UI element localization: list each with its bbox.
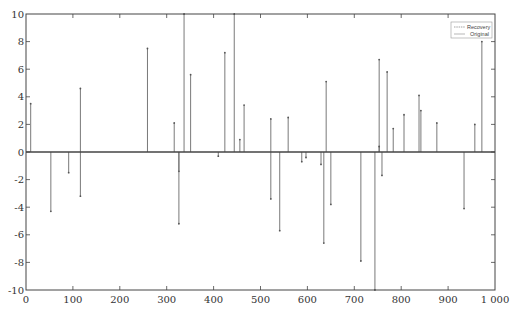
stem-marker bbox=[50, 210, 52, 212]
x-tick-label: 900 bbox=[439, 294, 458, 305]
stem-marker bbox=[147, 48, 149, 50]
y-tick-label: 6 bbox=[18, 64, 24, 75]
stem-marker bbox=[30, 103, 32, 105]
x-tick-label: 400 bbox=[204, 294, 223, 305]
stem-marker bbox=[243, 104, 245, 106]
stem-marker bbox=[68, 172, 70, 174]
x-tick-label: 1 000 bbox=[481, 294, 510, 305]
stem-marker bbox=[330, 204, 332, 206]
y-tick-label: -8 bbox=[14, 257, 24, 268]
x-tick-label: 300 bbox=[157, 294, 176, 305]
stem-marker bbox=[481, 41, 483, 43]
stem-marker bbox=[403, 114, 405, 116]
y-tick-label: -6 bbox=[14, 229, 24, 240]
stem-marker bbox=[224, 52, 226, 54]
y-tick-label: 2 bbox=[18, 119, 24, 130]
y-tick-label: -10 bbox=[8, 285, 24, 296]
stem-marker bbox=[325, 81, 327, 83]
x-tick-label: 800 bbox=[392, 294, 411, 305]
stem-marker bbox=[323, 242, 325, 244]
y-tick-label: -4 bbox=[14, 202, 24, 213]
stem-marker bbox=[360, 260, 362, 262]
stem-marker bbox=[287, 117, 289, 119]
y-tick-label: -2 bbox=[14, 174, 24, 185]
y-tick-label: 4 bbox=[18, 91, 24, 102]
x-tick-label: 700 bbox=[345, 294, 364, 305]
stem-marker bbox=[270, 198, 272, 200]
stem-marker bbox=[463, 208, 465, 210]
stem-marker bbox=[392, 128, 394, 130]
stem-marker bbox=[178, 223, 180, 225]
stem-chart: 01002003004005006007008009001 0001086420… bbox=[0, 0, 511, 322]
legend-original: Original bbox=[470, 31, 489, 37]
x-tick-label: 200 bbox=[110, 294, 129, 305]
stem-marker bbox=[305, 157, 307, 159]
y-tick-label: 0 bbox=[18, 147, 24, 158]
axes: 01002003004005006007008009001 0001086420… bbox=[8, 9, 509, 306]
stem-marker bbox=[320, 164, 322, 166]
legend: Recovery Original bbox=[451, 22, 492, 38]
stem-marker bbox=[279, 230, 281, 232]
x-tick-label: 500 bbox=[251, 294, 270, 305]
stem-marker bbox=[381, 175, 383, 177]
x-tick-label: 0 bbox=[23, 294, 29, 305]
stem-marker bbox=[80, 195, 82, 197]
stem-marker bbox=[378, 59, 380, 61]
stem-marker bbox=[378, 146, 380, 148]
stem-marker bbox=[80, 88, 82, 90]
stem-marker bbox=[474, 124, 476, 126]
stem-marker bbox=[301, 161, 303, 163]
x-tick-label: 100 bbox=[63, 294, 82, 305]
stem-marker bbox=[436, 122, 438, 124]
y-tick-label: 8 bbox=[18, 36, 24, 47]
y-tick-label: 10 bbox=[11, 9, 24, 20]
stem-marker bbox=[418, 95, 420, 97]
stem-marker bbox=[386, 71, 388, 73]
stem-series bbox=[26, 13, 495, 291]
stem-marker bbox=[173, 122, 175, 124]
stem-marker bbox=[239, 139, 241, 141]
stem-marker bbox=[217, 155, 219, 157]
stem-marker bbox=[270, 118, 272, 120]
x-tick-label: 600 bbox=[298, 294, 317, 305]
stem-marker bbox=[420, 110, 422, 112]
legend-recovery: Recovery bbox=[467, 24, 490, 30]
stem-marker bbox=[190, 74, 192, 76]
